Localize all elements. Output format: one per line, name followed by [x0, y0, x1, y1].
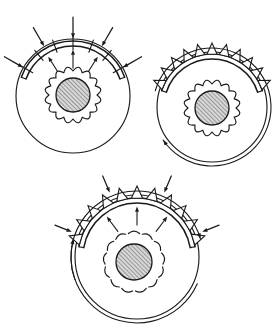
combined-load-panel-inward-arrow-1-head — [106, 187, 110, 193]
radial-load-panel-inward-arrow-4-head — [123, 63, 128, 67]
radial-load-panel-inward-arrow-4-shaft — [127, 57, 141, 65]
pressure-distribution-panel-hatched-core — [195, 91, 229, 125]
panels-group — [4, 17, 271, 323]
radial-load-panel-inward-arrow-2-head — [71, 33, 75, 38]
combined-load-panel-inward-arrow-3-head — [202, 228, 208, 232]
radial-load-panel-inward-arrow-3-head — [102, 41, 106, 47]
figure-canvas — [0, 0, 279, 333]
combined-load-panel-inward-arrow-0-head — [66, 228, 72, 232]
combined-load-panel-spike-6 — [146, 188, 157, 201]
combined-load-panel-inward-arrow-2-shaft — [166, 176, 171, 188]
combined-load-panel-hatched-core — [116, 244, 152, 280]
pressure-distribution-panel-spike-4 — [195, 45, 205, 57]
pressure-distribution-panel-spike-6 — [219, 45, 229, 57]
radial-load-panel-inward-arrow-0-head — [18, 63, 24, 67]
technical-figure — [0, 0, 279, 333]
combined-load-panel-inward-arrow-3-shaft — [207, 225, 219, 230]
pressure-distribution-panel — [154, 43, 271, 166]
combined-load-panel-inward-arrow-1-shaft — [103, 176, 108, 188]
radial-load-panel-inward-arrow-1-shaft — [33, 28, 41, 42]
combined-load-panel-spike-4 — [117, 188, 128, 201]
radial-load-panel-hatched-core — [56, 78, 90, 112]
radial-load-panel-inward-arrow-1-head — [40, 41, 44, 47]
combined-load-panel-inward-arrow-0-shaft — [55, 225, 67, 230]
radial-load-panel-inward-arrow-3-shaft — [104, 28, 112, 42]
combined-load-panel — [55, 176, 219, 323]
radial-load-panel — [4, 17, 141, 153]
combined-load-panel-spike-5 — [131, 186, 142, 198]
radial-load-panel-inward-arrow-0-shaft — [4, 57, 18, 65]
combined-load-panel-inward-arrow-2-head — [164, 187, 168, 193]
